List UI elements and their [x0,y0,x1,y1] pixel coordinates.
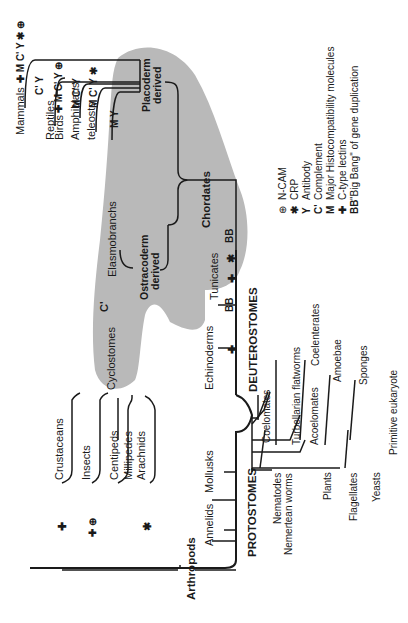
markers-teleosts: M C' Y ✱ [88,66,99,108]
insects-marker: ✚ ⊕ [87,518,98,537]
cyclostomes-marker: C' [98,301,110,312]
taxon-nematodes: Nematodes [272,473,283,524]
taxon-tunicates: Tunicates [208,252,220,300]
legend-label-crp: CRP [289,179,300,200]
taxon-arachnids: Arachnids [135,431,147,480]
taxon-elasmobranchs: Elasmobranchs [106,201,118,277]
phylogeny-diagram: Mammals ✚ M C' Y ✱ ⊕ Reptiles C' Y Birds… [0,0,408,623]
protostomes-label: PROTOSTOMES [246,468,258,557]
markers-reptiles: C' Y [34,76,45,95]
taxon-echinoderms: Echinoderms [203,325,215,390]
legend: ⊕ N-CAM ✱ CRP Y Antibody C' Complement M… [277,47,360,214]
legend-symbol-complement: C' [313,204,324,214]
tunicates-star-marker: ✱ [225,254,237,263]
bb-marker-lower: BB [224,298,235,312]
taxon-plants: Plants [322,472,333,500]
legend-label-antibody: Antibody [301,161,312,200]
taxon-birds: Birds [53,114,65,140]
acoelomates-label: Acoelomates [309,387,320,445]
echinoderms-plus-marker: ✚ [226,345,238,354]
taxon-coelenterates: Coelenterates [310,304,321,366]
legend-label-lectins: C-type lectins [337,139,348,200]
chordates-label: Chordates [200,171,212,228]
taxon-centipeds: Centipeds [108,430,120,480]
markers-amphibians: M C' Y [71,78,82,108]
taxon-crustaceans: Crustaceans [53,418,65,480]
coelomates-label: Coelomates [261,390,272,443]
taxon-yeasts: Yeasts [371,472,382,502]
taxon-millipedes: Millipedes [122,431,134,480]
taxon-turbellarian-flatworms: Turbellarian flatworms [291,347,302,445]
taxon-mammals: Mammals [14,87,26,135]
legend-label-ncam: N-CAM [277,167,288,200]
taxon-amoebae: Amoebae [332,339,343,382]
ostracoderm-derived-label: derived [149,253,161,290]
arthropods-label: Arthropods [185,537,197,600]
legend-symbol-antibody: Y [301,207,312,214]
legend-symbol-mhc: M [325,206,336,214]
bb-marker-upper: BB [224,229,235,243]
markers-mammals: ✚ M C' Y ✱ ⊕ [15,21,26,83]
taxon-flagellates: Flagellates [348,473,359,521]
placoderm-derived-label: derived [151,67,163,104]
legend-label-bigbang: "Big Bang" of gene duplication [349,66,360,200]
taxon-insects: Insects [80,445,92,480]
taxon-sponges: Sponges [358,346,369,385]
tunicates-plus-marker: ✚ [226,274,238,283]
taxon-mollusks: Mollusks [203,450,215,493]
crustaceans-marker: ✚ [56,522,68,531]
legend-symbol-lectins: ✚ [337,205,348,214]
taxon-nemertean-worms: Nemertean worms [283,473,294,555]
legend-symbol-crp: ✱ [289,205,300,214]
legend-symbol-bigbang: BB [349,200,360,214]
taxon-cyclostomes: Cyclostomes [105,327,117,390]
legend-label-mhc: Major Histocompatibility molecules [325,47,336,200]
legend-label-complement: Complement [313,143,324,200]
taxon-annelids: Annelids [203,503,215,546]
deuterostomes-label: DEUTEROSTOMES [247,287,259,392]
primitive-eukaryote-label: Primitive eukaryote [388,370,399,455]
legend-symbol-ncam: ⊕ [277,206,288,214]
markers-elasmobranchs: M Y [109,110,120,128]
markers-birds: ✚ M C' Y ⊕ [53,62,64,113]
arachnids-marker: ✱ [141,522,153,531]
